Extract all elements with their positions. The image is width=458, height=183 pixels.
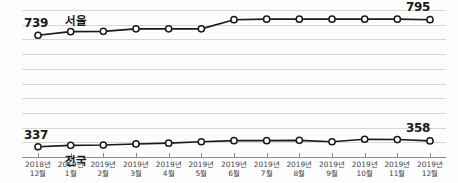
x-axis-label: 2019년8월 [286,160,312,178]
value-label-seoul-start: 739 [24,16,48,30]
x-axis-label: 2019년7월 [254,160,280,178]
data-point [68,29,74,35]
plot-area: 서울 전국 739 795 337 358 2018년12월2019년1월201… [0,0,458,183]
data-point [427,17,433,23]
series-label-seoul: 서울 [65,12,87,28]
x-axis-label: 2019년11월 [384,160,410,178]
data-point [100,142,106,148]
x-axis-label: 2019년5월 [188,160,214,178]
data-point [264,16,270,22]
data-point [296,16,302,22]
value-label-national-end: 358 [406,121,430,135]
line-chart: 서울 전국 739 795 337 358 2018년12월2019년1월201… [0,0,458,183]
data-point [362,136,368,142]
data-point [133,141,139,147]
data-point [329,16,335,22]
x-axis-label: 2019년2월 [90,160,116,178]
x-axis-label: 2019년10월 [352,160,378,178]
x-axis-label: 2019년3월 [123,160,149,178]
data-point [198,26,204,32]
data-point [394,136,400,142]
data-point [100,28,106,34]
data-point [296,137,302,143]
data-point [35,144,41,150]
value-label-national-start: 337 [24,128,48,142]
x-axis-label: 2018년12월 [25,160,51,178]
data-point [133,26,139,32]
x-axis-labels: 2018년12월2019년1월2019년2월2019년3월2019년4월2019… [22,158,446,183]
data-point [264,138,270,144]
data-point [166,26,172,32]
x-axis-label: 2019년6월 [221,160,247,178]
data-point [231,138,237,144]
x-axis-label: 2019년4월 [156,160,182,178]
data-point [231,17,237,23]
data-point [329,139,335,145]
data-point [362,16,368,22]
data-point [166,140,172,146]
data-point [198,139,204,145]
value-label-seoul-end: 795 [406,0,430,14]
data-point [68,142,74,148]
x-axis-label: 2019년9월 [319,160,345,178]
data-point [427,138,433,144]
x-axis-label: 2019년1월 [58,160,84,178]
data-point [35,32,41,38]
x-axis-label: 2019년12월 [417,160,443,178]
data-point [394,16,400,22]
